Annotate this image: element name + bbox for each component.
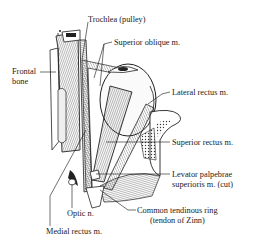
label-superior-oblique: Superior oblique m. (114, 38, 180, 48)
label-common-ring-line1: Common tendinous ring (137, 206, 218, 215)
label-common-ring-line2: (tendon of Zinn) (150, 216, 205, 225)
optic-nerve-drawing (68, 170, 78, 186)
label-common-tendinous-ring: Common tendinous ring (tendon of Zinn) (137, 206, 218, 225)
label-frontal-bone: Frontal bone (12, 67, 36, 86)
frontal-bone-drawing (50, 30, 80, 152)
label-lateral-rectus: Lateral rectus m. (172, 88, 228, 98)
label-medial-rectus: Medial rectus m. (46, 227, 102, 237)
label-frontal-bone-line1: Frontal (12, 67, 36, 76)
label-frontal-bone-line2: bone (12, 77, 28, 86)
label-trochlea: Trochlea (pulley) (88, 15, 146, 25)
orbit-illustration (0, 0, 259, 244)
label-optic-nerve: Optic n. (67, 209, 94, 219)
common-tendinous-ring-drawing (86, 186, 104, 208)
label-levator-line2: superioris m. (cut) (172, 180, 233, 189)
label-levator-palpebrae: Levator palpebrae superioris m. (cut) (172, 170, 233, 189)
anatomy-figure: Trochlea (pulley) Superior oblique m. Fr… (0, 0, 259, 244)
label-superior-rectus: Superior rectus m. (172, 138, 233, 148)
label-levator-line1: Levator palpebrae (172, 170, 232, 179)
levator-palpebrae-drawing (90, 170, 100, 180)
